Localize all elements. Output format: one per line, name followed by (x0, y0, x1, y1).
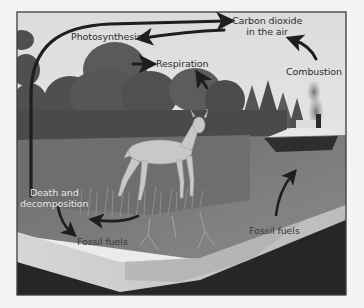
label-fossil-fuels-left: Fossil fuels (77, 236, 128, 247)
label-respiration: Respiration (156, 58, 208, 69)
carbon-cycle-illustration (0, 0, 364, 308)
label-death-decomposition: Death and decomposition (20, 187, 89, 209)
label-carbon-dioxide: Carbon dioxide in the air (232, 15, 302, 37)
label-carbon-dioxide-line1: Carbon dioxide (232, 15, 302, 26)
label-carbon-dioxide-line2: in the air (232, 26, 302, 37)
label-photosynthesis: Photosynthesis (71, 31, 141, 42)
label-fossil-fuels-right: Fossil fuels (249, 225, 300, 236)
label-death-line2: decomposition (20, 198, 89, 209)
label-death-line1: Death and (20, 187, 89, 198)
label-combustion: Combustion (286, 66, 342, 77)
